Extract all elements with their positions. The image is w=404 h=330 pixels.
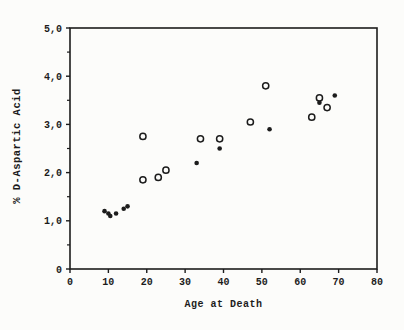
data-point-filled-dot <box>125 204 130 209</box>
x-tick-label: 70 <box>333 277 345 288</box>
data-point-open-circle <box>140 133 146 139</box>
x-tick-label: 20 <box>141 277 153 288</box>
data-point-open-circle <box>324 104 330 110</box>
data-point-open-circle <box>155 174 161 180</box>
y-tick-label: 3,0 <box>44 120 62 131</box>
data-point-filled-dot <box>121 206 126 211</box>
x-tick-label: 50 <box>256 277 268 288</box>
data-point-open-circle <box>309 114 315 120</box>
scatter-plot-canvas: 0102030405060708001,02,03,04,05,0 <box>0 0 404 330</box>
x-tick-label: 10 <box>102 277 114 288</box>
data-point-open-circle <box>197 136 203 142</box>
y-tick-label: 0 <box>56 265 62 276</box>
y-axis-title: % D-Aspartic Acid <box>11 88 23 204</box>
data-point-filled-dot <box>317 100 322 105</box>
data-point-open-circle <box>140 177 146 183</box>
plot-frame <box>70 28 377 269</box>
data-point-open-circle <box>217 136 223 142</box>
data-point-filled-dot <box>102 209 107 214</box>
data-point-filled-dot <box>114 211 119 216</box>
x-tick-label: 0 <box>67 277 73 288</box>
data-point-open-circle <box>316 95 322 101</box>
data-point-filled-dot <box>332 93 337 98</box>
y-tick-label: 5,0 <box>44 24 62 35</box>
y-tick-label: 4,0 <box>44 72 62 83</box>
y-tick-label: 1,0 <box>44 216 62 227</box>
data-point-filled-dot <box>108 214 113 219</box>
data-point-filled-dot <box>217 146 222 151</box>
data-point-open-circle <box>247 119 253 125</box>
x-tick-label: 30 <box>179 277 191 288</box>
x-tick-label: 40 <box>217 277 229 288</box>
x-tick-label: 60 <box>294 277 306 288</box>
data-point-filled-dot <box>194 161 199 166</box>
x-axis-title: Age at Death <box>70 299 377 310</box>
data-point-filled-dot <box>267 127 272 132</box>
x-tick-label: 80 <box>371 277 383 288</box>
y-tick-label: 2,0 <box>44 168 62 179</box>
scatter-plot-figure: 0102030405060708001,02,03,04,05,0 Age at… <box>0 0 404 330</box>
data-point-open-circle <box>163 167 169 173</box>
data-point-open-circle <box>263 83 269 89</box>
